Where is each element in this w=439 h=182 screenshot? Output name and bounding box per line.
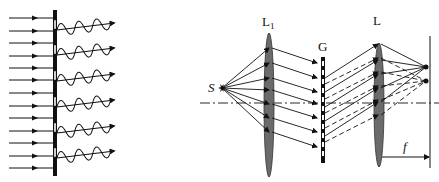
focused-solid-rays: [381, 44, 426, 102]
left-grating: [53, 10, 57, 176]
diffracted-wavelets: [56, 17, 115, 164]
focal-length-label: f: [403, 139, 409, 154]
focused-dashed-rays: [381, 58, 426, 115]
collimated-rays: [272, 48, 317, 147]
incident-rays: [9, 18, 53, 168]
incident-arrowheads: [32, 16, 38, 171]
lens-l1-label: L1: [262, 14, 274, 31]
lens-l1: [264, 33, 274, 177]
lens-l-label: L: [373, 13, 381, 28]
left-panel: [9, 10, 115, 176]
grating-g: [321, 57, 325, 163]
source-label: S: [208, 80, 215, 95]
source-rays: [222, 48, 269, 132]
diffracted-dashed-rays: [325, 58, 378, 142]
grating-label: G: [318, 39, 327, 54]
focal-spots: [424, 65, 429, 84]
diffraction-grating-diagram: L1 S G: [0, 0, 439, 182]
right-panel: L1 S G: [200, 13, 439, 177]
